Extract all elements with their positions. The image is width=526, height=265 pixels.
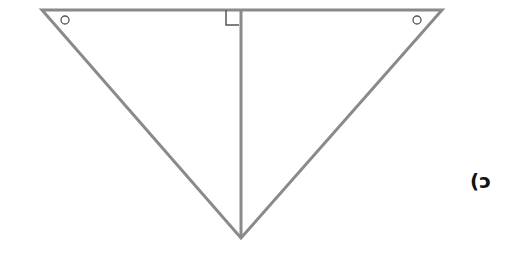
figure-label: (ɔ [470,169,491,193]
isosceles-triangle-diagram [0,0,526,265]
angle-mark-right-icon [413,16,421,24]
angle-mark-left-icon [61,16,69,24]
right-angle-icon [226,10,239,25]
